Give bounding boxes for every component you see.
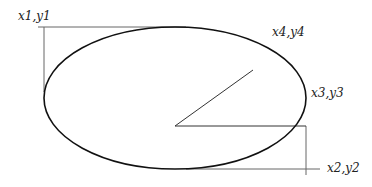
label-x2-y2: x2,y2 [327,162,360,174]
label-x4-y4: x4,y4 [272,26,305,38]
label-x3-y3: x3,y3 [311,87,344,99]
label-x1-y1: x1,y1 [18,10,51,22]
ellipse-shape [44,27,306,169]
end-angle-line [175,70,253,126]
